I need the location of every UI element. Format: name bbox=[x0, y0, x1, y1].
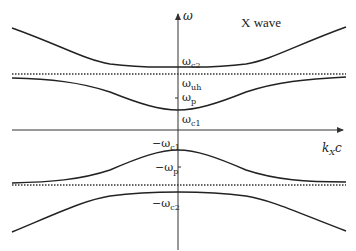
branch-upper-high bbox=[12, 27, 346, 67]
label-neg-wc2: −ωc2 bbox=[152, 197, 180, 212]
omega-axis-label: ω bbox=[183, 9, 193, 23]
diagram-title: X wave bbox=[241, 15, 281, 30]
label-wp: ωp bbox=[182, 91, 196, 106]
branch-upper-low bbox=[12, 77, 346, 110]
label-neg-wc1: −ωc1 bbox=[152, 137, 180, 152]
x-wave-dispersion-diagram: X wave ω kXc ωc2 ωuh ωp ωc1 −ωc1 −ωp −ωc… bbox=[0, 0, 356, 251]
branch-lower-high bbox=[12, 192, 346, 232]
k-axis-label: kXc bbox=[322, 141, 342, 157]
label-wc2: ωc2 bbox=[182, 55, 201, 70]
label-wc1: ωc1 bbox=[182, 113, 201, 128]
label-neg-wp: −ωp bbox=[155, 161, 178, 176]
label-wuh: ωuh bbox=[182, 77, 201, 92]
